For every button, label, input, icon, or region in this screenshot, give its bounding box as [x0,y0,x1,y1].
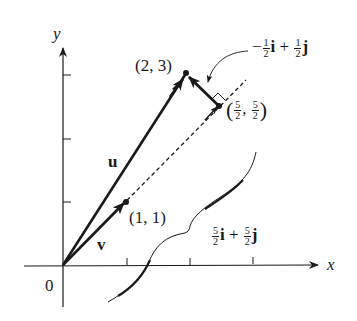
point-2-3 [183,70,189,76]
point-5half-label: (52, 52) [226,99,267,121]
vector-u-label: u [108,153,117,170]
y-ticks [63,75,71,202]
projection-expression: 52i + 52j [211,226,258,247]
leader-arrow [208,51,248,82]
y-axis-label: y [53,25,61,42]
point-1-1 [123,199,129,205]
x-axis [24,265,318,266]
x-ticks [127,257,253,265]
vector-u [63,75,185,265]
point-2-3-label: (2, 3) [135,57,172,74]
vector-v-label: v [97,236,106,253]
origin-label: 0 [45,277,54,294]
x-axis-label: x [327,256,335,273]
projection-arrow [205,107,217,120]
orthogonal-expression: −12i + 12j [252,38,308,59]
right-angle-mark [212,93,225,100]
point-1-1-label: (1, 1) [129,209,166,226]
point-5half-5half [216,103,222,109]
vector-orthogonal [189,77,219,106]
vector-v [63,203,124,265]
